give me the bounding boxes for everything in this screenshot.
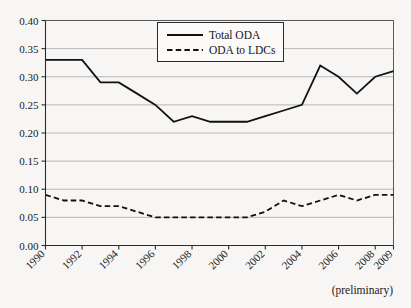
y-tick-label-0.35: 0.35 — [19, 43, 39, 55]
y-tick-label-0.10: 0.10 — [19, 183, 39, 195]
line-chart: 0.000.050.100.150.200.250.300.350.40 199… — [0, 0, 411, 308]
legend-label-total-oda: Total ODA — [209, 29, 261, 41]
preliminary-note: (preliminary) — [332, 284, 393, 297]
y-tick-label-0.40: 0.40 — [19, 15, 39, 27]
y-tick-label-0.30: 0.30 — [19, 71, 39, 83]
chart-container: 0.000.050.100.150.200.250.300.350.40 199… — [0, 0, 411, 308]
legend-label-oda-to-ldcs: ODA to LDCs — [209, 44, 276, 56]
y-tick-label-0.25: 0.25 — [19, 99, 39, 111]
y-tick-label-0.20: 0.20 — [19, 127, 39, 139]
y-axis-tick-labels: 0.000.050.100.150.200.250.300.350.40 — [19, 15, 39, 252]
chart-legend: Total ODA ODA to LDCs — [158, 23, 284, 62]
y-tick-label-0.15: 0.15 — [19, 155, 39, 167]
y-tick-label-0.05: 0.05 — [19, 211, 39, 223]
